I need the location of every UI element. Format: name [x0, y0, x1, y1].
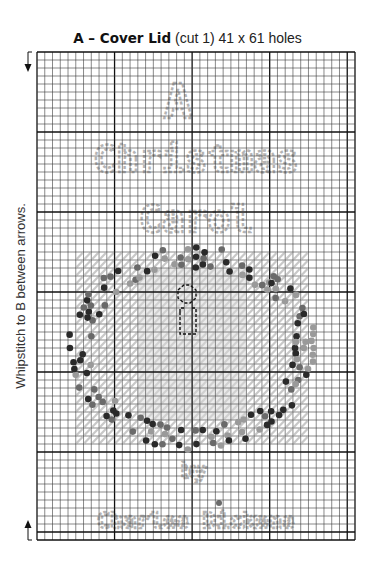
pattern-text: Christmas [93, 137, 299, 181]
pattern-text: Carol [139, 197, 253, 241]
down-arrow-icon [25, 52, 33, 72]
pattern-text: by [181, 458, 208, 483]
pattern-text: A [164, 73, 193, 129]
plastic-canvas-chart: AChristmasCarolbyCharles Dickens [0, 0, 375, 563]
up-arrow-icon [25, 520, 33, 540]
pattern-text: Charles Dickens [97, 508, 296, 533]
